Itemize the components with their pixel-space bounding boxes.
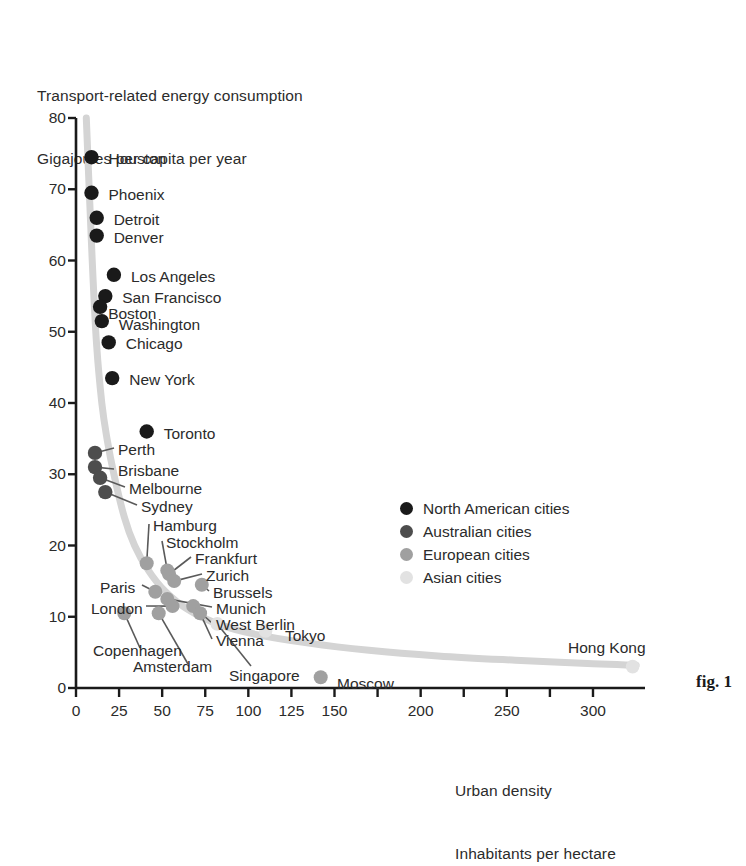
legend-swatch <box>400 548 413 561</box>
data-point-label: Houston <box>109 151 167 167</box>
x-tick-label: 150 <box>322 702 348 720</box>
y-tick-label: 20 <box>18 537 66 555</box>
data-point <box>88 446 102 460</box>
data-point <box>167 574 181 588</box>
data-point <box>140 556 154 570</box>
data-point <box>626 660 640 674</box>
x-tick-label: 100 <box>235 702 261 720</box>
data-point-label: Toronto <box>164 426 216 442</box>
data-point-label: Copenhagen <box>93 643 182 659</box>
x-axis-title-line2: Inhabitants per hectare <box>455 843 616 864</box>
y-tick-label: 30 <box>18 465 66 483</box>
legend-swatch <box>400 502 413 515</box>
data-point-label: Vienna <box>216 633 264 649</box>
data-points <box>84 150 639 684</box>
data-point-label: San Francisco <box>122 290 221 306</box>
data-point <box>90 211 104 225</box>
data-point-label: Tokyo <box>285 628 326 644</box>
y-tick-label: 70 <box>18 180 66 198</box>
data-point <box>107 268 121 282</box>
y-tick-label: 40 <box>18 394 66 412</box>
data-point <box>193 606 207 620</box>
x-tick-label: 50 <box>154 702 171 720</box>
data-point-label: Hamburg <box>153 518 217 534</box>
data-point-label: Paris <box>100 580 135 596</box>
x-tick-label: 25 <box>110 702 127 720</box>
data-point-label: Washington <box>119 317 200 333</box>
data-point <box>105 371 119 385</box>
data-point-label: Moscow <box>337 676 394 692</box>
x-tick-label: 200 <box>408 702 434 720</box>
legend-label: Australian cities <box>423 524 532 540</box>
legend-label: European cities <box>423 547 530 563</box>
data-point <box>102 335 116 349</box>
legend-label: North American cities <box>423 501 569 517</box>
y-tick-label: 50 <box>18 323 66 341</box>
data-point-label: New York <box>129 372 194 388</box>
data-point-label: Phoenix <box>109 187 165 203</box>
data-point <box>166 599 180 613</box>
data-point <box>98 485 112 499</box>
x-tick-label: 125 <box>278 702 304 720</box>
data-point-label: Hong Kong <box>568 640 646 656</box>
data-point <box>93 300 107 314</box>
data-point-label: Melbourne <box>129 481 202 497</box>
data-point <box>84 150 98 164</box>
data-point-label: Los Angeles <box>131 269 215 285</box>
data-point-label: London <box>91 601 143 617</box>
data-point <box>84 186 98 200</box>
data-point-label: Singapore <box>229 668 300 684</box>
data-point-label: Amsterdam <box>133 659 212 675</box>
data-point <box>152 606 166 620</box>
data-point <box>93 471 107 485</box>
x-tick-label: 75 <box>197 702 214 720</box>
y-tick-label: 80 <box>18 109 66 127</box>
data-point-label: Brisbane <box>118 463 179 479</box>
data-point <box>95 314 109 328</box>
data-point-label: Chicago <box>126 336 183 352</box>
x-tick-label: 0 <box>72 702 81 720</box>
data-point-label: West Berlin <box>216 617 295 633</box>
data-point-label: Denver <box>114 230 164 246</box>
y-tick-label: 60 <box>18 252 66 270</box>
data-point-label: Stockholm <box>166 535 238 551</box>
legend-label: Asian cities <box>423 570 501 586</box>
legend-swatch <box>400 571 413 584</box>
x-tick-label: 250 <box>494 702 520 720</box>
data-point-label: Perth <box>118 442 155 458</box>
data-point <box>148 585 162 599</box>
data-point <box>90 228 104 242</box>
data-point <box>140 424 154 438</box>
data-point-label: Munich <box>216 601 266 617</box>
data-point-label: Brussels <box>213 585 272 601</box>
data-point-label: Detroit <box>114 212 160 228</box>
x-tick-label: 300 <box>580 702 606 720</box>
data-point-label: Zurich <box>206 568 249 584</box>
data-point-label: Sydney <box>141 499 193 515</box>
y-tick-label: 10 <box>18 608 66 626</box>
y-tick-label: 0 <box>18 679 66 697</box>
data-point <box>314 670 328 684</box>
legend-swatch <box>400 525 413 538</box>
data-point-label: Frankfurt <box>195 551 257 567</box>
